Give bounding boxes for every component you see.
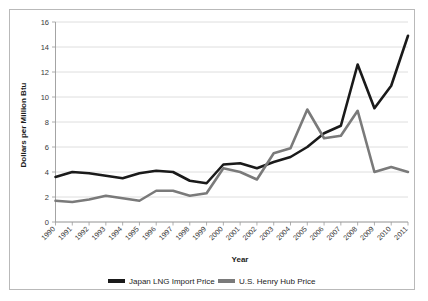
x-tick-label: 2010: [375, 225, 393, 243]
x-axis-tick-labels: 1990199119921993199419951996199719981999…: [39, 225, 409, 243]
x-tick-label: 2003: [257, 225, 275, 243]
chart-figure: 0246810121416 19901991199219931994199519…: [0, 0, 428, 301]
x-tick-label: 2001: [224, 225, 242, 243]
gridlines: [56, 22, 409, 222]
x-tick-label: 1994: [106, 225, 124, 243]
y-tick-label: 10: [41, 93, 49, 102]
x-tick-label: 2002: [241, 225, 259, 243]
y-axis-tick-labels: 0246810121416: [41, 18, 49, 227]
x-tick-label: 2011: [392, 225, 409, 242]
x-tick-label: 1990: [39, 225, 57, 243]
x-axis-title: Year: [232, 255, 249, 264]
y-tick-label: 8: [45, 118, 49, 127]
x-tick-label: 1999: [190, 225, 208, 243]
line-chart: 0246810121416 19901991199219931994199519…: [0, 0, 428, 301]
x-tick-label: 2008: [341, 225, 359, 243]
y-axis-title: Dollars per Million Btu: [19, 82, 28, 167]
x-tick-label: 2009: [358, 225, 376, 243]
x-tick-label: 2006: [308, 225, 326, 243]
x-tick-label: 1991: [56, 225, 74, 243]
x-tick-label: 2004: [274, 225, 292, 243]
series-line-1: [56, 36, 409, 184]
legend-label: Japan LNG Import Price: [129, 277, 215, 286]
x-tick-label: 2005: [291, 225, 309, 243]
x-tick-label: 1993: [90, 225, 108, 243]
x-tick-label: 1992: [73, 225, 91, 243]
x-tick-label: 1995: [123, 225, 141, 243]
legend-label: U.S. Henry Hub Price: [239, 277, 316, 286]
y-tick-label: 12: [41, 68, 49, 77]
x-tick-label: 1997: [157, 225, 175, 243]
x-tick-label: 1998: [174, 225, 192, 243]
y-tick-label: 16: [41, 18, 49, 27]
data-series: [56, 36, 409, 202]
x-tick-label: 2007: [325, 225, 343, 243]
y-tick-label: 14: [41, 43, 49, 52]
y-tick-label: 2: [45, 193, 49, 202]
y-tick-label: 4: [45, 168, 49, 177]
x-tick-label: 1996: [140, 225, 158, 243]
y-tick-label: 6: [45, 143, 49, 152]
x-tick-label: 2000: [207, 225, 225, 243]
series-line-2: [56, 110, 409, 203]
chart-legend: Japan LNG Import PriceU.S. Henry Hub Pri…: [108, 277, 316, 286]
